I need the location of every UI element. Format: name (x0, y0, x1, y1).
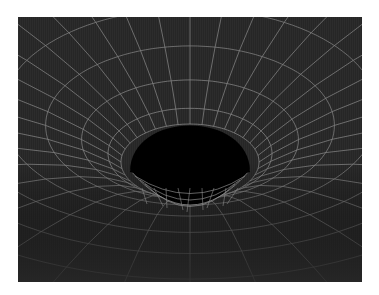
illustration-panel: A dark wireframe grid curving down into … (18, 17, 362, 282)
spacetime-grid-illustration (18, 17, 362, 282)
